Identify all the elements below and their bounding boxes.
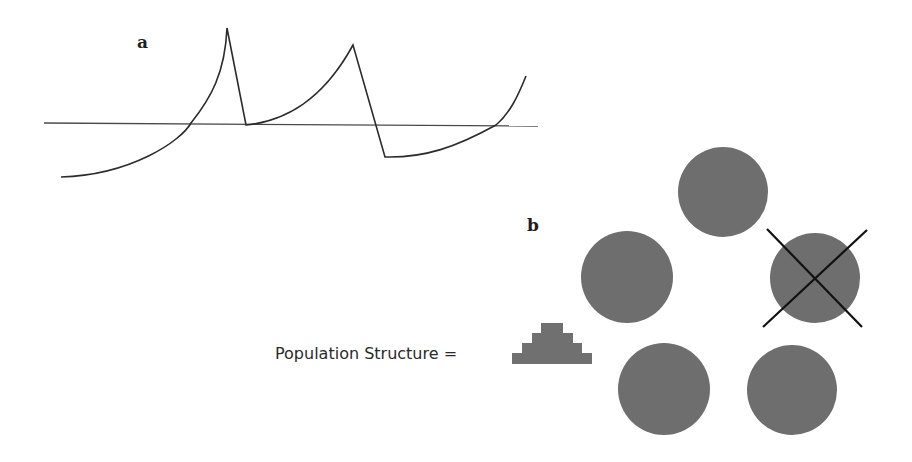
pyramid-age-row-1	[541, 323, 563, 333]
subpopulation-circle-bottom-right	[747, 345, 837, 435]
panel-b-label: b	[527, 215, 539, 235]
zero-baseline	[44, 123, 538, 126]
population-structure-caption: Population Structure =	[275, 344, 457, 363]
subpopulation-circle-bottom-left	[618, 343, 710, 435]
panel-a: a	[44, 28, 538, 177]
figure-canvas: a b Population Structure =	[0, 0, 912, 462]
panel-b: b Population Structure =	[275, 147, 867, 435]
subpopulation-circle-left	[581, 231, 673, 323]
subpopulation-circle-top	[678, 147, 768, 237]
population-pyramid-icon	[512, 323, 592, 364]
subpopulation-circles	[581, 147, 860, 435]
pyramid-age-row-2	[532, 333, 573, 343]
panel-a-label: a	[137, 32, 148, 52]
pyramid-age-row-3	[522, 343, 582, 353]
pyramid-age-row-4	[512, 353, 592, 364]
oscillating-population-curve	[61, 28, 526, 177]
